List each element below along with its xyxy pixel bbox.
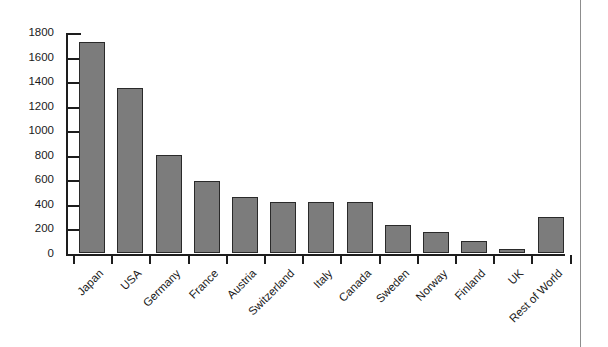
bar: [117, 88, 143, 253]
y-axis-tick-label: 1000: [28, 123, 54, 138]
x-axis-category-label: France: [186, 267, 221, 302]
x-axis-category-label: Sweden: [373, 267, 412, 306]
y-axis-tick-label: 200: [35, 221, 54, 236]
x-axis-tick: [379, 255, 381, 264]
x-axis-category-label: Germany: [140, 267, 183, 310]
x-axis-tick: [455, 255, 457, 264]
category-label-text: Austria: [225, 267, 260, 302]
x-axis-category-label: Japan: [75, 267, 106, 298]
x-axis-tick: [111, 255, 113, 264]
x-axis-tick: [417, 255, 419, 264]
category-label-text: Sweden: [373, 267, 412, 306]
bar-chart-figure: 020040060080010001200140016001800 JapanU…: [0, 0, 608, 347]
category-label-text: Finland: [452, 267, 488, 303]
y-axis-tick-label: 1200: [28, 99, 54, 114]
bar: [79, 42, 105, 253]
x-axis-tick: [264, 255, 266, 264]
plot-area: 020040060080010001200140016001800 JapanU…: [68, 33, 565, 254]
category-label-text: France: [186, 267, 221, 302]
bar: [499, 249, 525, 253]
category-label-text: Germany: [140, 267, 183, 310]
x-axis-category-label: Austria: [225, 267, 260, 302]
bar: [308, 202, 334, 253]
x-axis-category-label: USA: [119, 267, 145, 293]
y-axis-line: [66, 33, 68, 255]
x-axis-tick: [226, 255, 228, 264]
y-axis-tick-label: 400: [35, 197, 54, 212]
bar: [194, 181, 220, 253]
x-axis-category-label: Italy: [311, 267, 335, 291]
x-axis-tick: [73, 255, 75, 264]
bar: [385, 225, 411, 253]
x-axis-category-label: UK: [506, 267, 526, 287]
category-label-text: UK: [506, 267, 526, 287]
bar: [156, 155, 182, 253]
y-axis-tick: 1800: [68, 33, 81, 35]
x-axis-tick: [188, 255, 190, 264]
bar: [423, 232, 449, 253]
y-axis-tick-label: 1400: [28, 74, 54, 89]
x-axis-tick: [493, 255, 495, 264]
x-axis-line: [66, 254, 565, 256]
x-axis-tick: [531, 255, 533, 264]
y-axis-tick-label: 800: [35, 148, 54, 163]
bar: [232, 197, 258, 253]
category-label-text: USA: [119, 267, 145, 293]
category-label-text: Canada: [336, 267, 374, 305]
category-label-text: Norway: [413, 267, 450, 304]
y-axis-tick-label: 1600: [28, 50, 54, 65]
x-axis-tick: [302, 255, 304, 264]
x-axis-category-label: Canada: [336, 267, 374, 305]
y-axis-tick-label: 1800: [28, 25, 54, 40]
category-label-text: Japan: [75, 267, 106, 298]
x-axis-tick: [340, 255, 342, 264]
y-axis-tick-label: 600: [35, 172, 54, 187]
bar: [461, 241, 487, 253]
x-axis-tick: [570, 255, 572, 264]
page-edge-rule: [580, 0, 581, 347]
bar: [270, 202, 296, 253]
y-axis-tick-label: 0: [48, 246, 54, 261]
x-axis-category-label: Finland: [452, 267, 488, 303]
x-axis-category-label: Norway: [413, 267, 450, 304]
x-axis-tick: [149, 255, 151, 264]
category-label-text: Italy: [311, 267, 335, 291]
bar: [538, 217, 564, 253]
bar: [347, 202, 373, 253]
